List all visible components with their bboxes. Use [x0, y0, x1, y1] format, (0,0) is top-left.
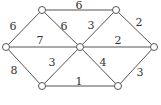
weighted-graph: 678663132243	[0, 0, 161, 105]
graph-node-A	[3, 44, 10, 51]
graph-node-G	[151, 44, 158, 51]
graph-node-E	[113, 7, 120, 14]
graph-node-C	[39, 83, 46, 90]
edge-weight-label: 3	[137, 66, 144, 79]
edge-weight-label: 2	[115, 34, 122, 47]
graph-node-B	[39, 7, 46, 14]
edge-weight-label: 2	[136, 16, 143, 29]
edge-E-D	[80, 10, 116, 47]
edge-weight-label: 6	[10, 20, 17, 33]
edge-weight-label: 7	[37, 34, 44, 47]
edge-weight-label: 3	[88, 19, 95, 32]
edge-weight-label: 6	[76, 0, 83, 12]
edge-weight-label: 3	[49, 56, 56, 69]
edge-weight-label: 6	[61, 20, 68, 33]
edge-weight-label: 8	[11, 64, 18, 77]
graph-node-D	[77, 44, 84, 51]
edge-weight-label: 4	[100, 56, 107, 69]
edge-weight-label: 1	[76, 75, 83, 88]
graph-node-F	[115, 83, 122, 90]
